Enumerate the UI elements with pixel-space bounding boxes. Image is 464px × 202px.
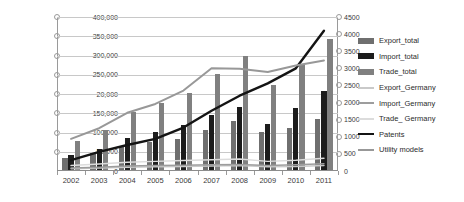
x-axis-label-2009: 2009 bbox=[254, 177, 282, 185]
legend-item-label: Utility models bbox=[379, 145, 424, 154]
legend-swatch-icon bbox=[358, 69, 374, 75]
x-axis-tickmark bbox=[310, 171, 311, 175]
legend-item-trade-germany[interactable]: Trade_ Germany bbox=[358, 111, 464, 127]
x-axis-tickmark bbox=[282, 171, 283, 175]
right-axis-tick-label: 4500 bbox=[344, 14, 384, 21]
legend-item-label: Trade_total bbox=[379, 67, 417, 76]
legend-item-label: Import_total bbox=[379, 52, 419, 61]
legend-item-import-total[interactable]: Import_total bbox=[358, 49, 464, 65]
legend-swatch-icon bbox=[358, 102, 374, 104]
legend-item-trade-total[interactable]: Trade_total bbox=[358, 64, 464, 80]
x-axis-label-2010: 2010 bbox=[282, 177, 310, 185]
legend-swatch-icon bbox=[358, 149, 374, 151]
legend-item-import-germany[interactable]: Import_Germany bbox=[358, 95, 464, 111]
x-axis-label-2006: 2006 bbox=[169, 177, 197, 185]
line-patents bbox=[71, 31, 324, 160]
legend-swatch-icon bbox=[358, 118, 374, 120]
legend-item-label: Trade_ Germany bbox=[379, 114, 435, 123]
x-axis-label-2007: 2007 bbox=[198, 177, 226, 185]
x-axis-label-2005: 2005 bbox=[141, 177, 169, 185]
x-axis-tickmark bbox=[198, 171, 199, 175]
x-axis-label-2004: 2004 bbox=[113, 177, 141, 185]
legend-item-export-total[interactable]: Export_total bbox=[358, 33, 464, 49]
legend-item-label: Patents bbox=[379, 130, 404, 139]
x-axis-label-2003: 2003 bbox=[85, 177, 113, 185]
x-axis-label-2011: 2011 bbox=[310, 177, 338, 185]
legend-swatch-icon bbox=[358, 38, 374, 44]
x-axis-tickmark bbox=[338, 171, 339, 175]
x-axis-tickmark bbox=[169, 171, 170, 175]
legend-swatch-icon bbox=[358, 133, 374, 135]
x-axis-label-2008: 2008 bbox=[226, 177, 254, 185]
chart-container: 400,000350,000300,000250,00020,000150,00… bbox=[0, 0, 464, 202]
legend-item-patents[interactable]: Patents bbox=[358, 127, 464, 143]
x-axis-tickmark bbox=[57, 171, 58, 175]
right-axis-tick-label: 0 bbox=[344, 168, 384, 175]
legend-item-label: Export_Germany bbox=[379, 83, 436, 92]
legend-swatch-icon bbox=[358, 53, 374, 59]
x-axis-label-2002: 2002 bbox=[57, 177, 85, 185]
legend-item-label: Export_total bbox=[379, 36, 419, 45]
legend-item-label: Import_Germany bbox=[379, 99, 435, 108]
legend-item-utility-models[interactable]: Utility models bbox=[358, 142, 464, 158]
x-axis-tickmark bbox=[113, 171, 114, 175]
chart-legend: Export_totalImport_totalTrade_totalExpor… bbox=[358, 33, 464, 158]
line-utility-models bbox=[71, 60, 324, 138]
x-axis-tickmark bbox=[85, 171, 86, 175]
legend-item-export-germany[interactable]: Export_Germany bbox=[358, 80, 464, 96]
line-series-layer bbox=[57, 17, 338, 171]
x-axis-tickmark bbox=[141, 171, 142, 175]
plot-area bbox=[57, 17, 338, 171]
x-axis-tickmark bbox=[254, 171, 255, 175]
x-axis-tickmark bbox=[226, 171, 227, 175]
legend-swatch-icon bbox=[358, 87, 374, 89]
